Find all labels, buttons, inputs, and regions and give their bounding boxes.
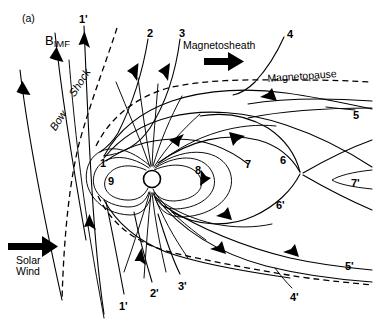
field-line-label-l1p_bot: 1' [119, 301, 128, 312]
field-line-label-l9: 9 [108, 176, 114, 187]
bimf-label: BIMF [45, 33, 70, 48]
field-line-label-l4p: 4' [290, 292, 299, 303]
earth-globe [144, 171, 161, 188]
magnetosheath-arrow [204, 52, 244, 71]
field-line-label-l1p_top: 1' [79, 14, 88, 25]
field-line-label-l6p: 6' [276, 200, 285, 211]
magnetopause-boundary [96, 80, 372, 285]
solar-wind-line-2: Wind [16, 265, 40, 277]
field-line-label-l8: 8 [195, 165, 201, 176]
bow-shock-boundary [62, 28, 117, 300]
bimf-symbol: B [45, 33, 54, 48]
field-line-label-l4: 4 [287, 29, 293, 40]
magnetosheath-label: Magnetosheath [183, 40, 255, 51]
field-line-label-l7: 7 [245, 159, 251, 170]
field-line-label-l1: 1 [100, 158, 106, 169]
panel-label: (a) [22, 12, 35, 24]
magnetosphere-figure: (a) BIMF Bow Shock Magnetosheath Magneto… [0, 0, 375, 325]
bimf-subscript: IMF [54, 38, 70, 49]
field-line-label-l5: 5 [353, 110, 359, 121]
field-line-label-l2: 2 [147, 28, 153, 39]
field-line-label-l3: 3 [179, 28, 185, 39]
field-line-label-l3p: 3' [178, 281, 187, 292]
solar-wind-label: Solar Wind [16, 255, 41, 277]
field-line-label-l6: 6 [280, 155, 286, 166]
field-line-label-l2p: 2' [150, 288, 159, 299]
field-line-label-l5p: 5' [345, 261, 354, 272]
flank-open-lines [248, 99, 372, 104]
field-line-label-l7p: 7' [351, 178, 360, 189]
